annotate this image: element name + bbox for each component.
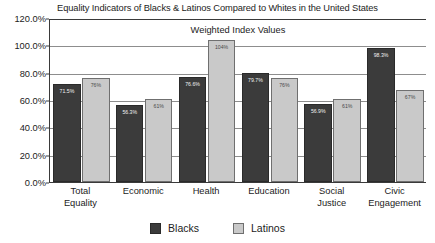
legend-item-blacks[interactable]: Blacks [150, 222, 199, 234]
bar-value-label: 67% [397, 94, 423, 100]
bar-value-label: 79.7% [243, 77, 269, 83]
x-axis-category-label: Health [175, 186, 238, 198]
bar-blacks-civic-engagement[interactable]: 98.3% [367, 48, 395, 182]
bar-chart: Equality Indicators of Blacks & Latinos … [0, 0, 435, 243]
legend-item-latinos[interactable]: Latinos [233, 222, 285, 234]
bar-value-label: 56.9% [305, 108, 331, 114]
bar-blacks-education[interactable]: 79.7% [242, 73, 270, 182]
bar-group: 98.3%67% [364, 19, 427, 182]
bar-value-label: 104% [209, 44, 235, 50]
bar-latinos-civic-engagement[interactable]: 67% [396, 90, 424, 182]
plot-area: Weighted Index Values 71.5%76%56.3%61%76… [49, 19, 426, 183]
bar-latinos-social-justice[interactable]: 61% [333, 99, 361, 182]
bar-group: 56.3%61% [113, 19, 176, 182]
y-axis-tick-label: 60.0% [0, 96, 46, 106]
bar-blacks-health[interactable]: 76.6% [179, 77, 207, 182]
x-axis-category-label: SocialJustice [300, 186, 363, 209]
bar-latinos-economic[interactable]: 61% [145, 99, 173, 182]
legend-label: Latinos [251, 222, 285, 234]
y-axis-tick-label: 80.0% [0, 69, 46, 79]
x-axis-category-label: Education [238, 186, 301, 198]
x-axis-category-label: CivicEngagement [363, 186, 426, 209]
legend-swatch-icon [150, 223, 161, 234]
bar-latinos-education[interactable]: 76% [271, 78, 299, 182]
bar-group: 71.5%76% [50, 19, 113, 182]
y-axis-tick-label: 100.0% [0, 41, 46, 51]
legend: BlacksLatinos [0, 222, 435, 234]
bar-blacks-economic[interactable]: 56.3% [116, 105, 144, 182]
bar-value-label: 76% [272, 82, 298, 88]
bar-value-label: 61% [334, 103, 360, 109]
x-axis-category-label: TotalEquality [49, 186, 112, 209]
y-axis-tick-label: 0.0% [0, 178, 46, 188]
bar-value-label: 56.3% [117, 109, 143, 115]
x-axis-labels: TotalEqualityEconomicHealthEducationSoci… [49, 186, 426, 220]
bar-value-label: 61% [146, 103, 172, 109]
bar-value-label: 76% [83, 82, 109, 88]
bar-latinos-total-equality[interactable]: 76% [82, 78, 110, 182]
bar-value-label: 98.3% [368, 52, 394, 58]
bar-blacks-social-justice[interactable]: 56.9% [304, 104, 332, 182]
bar-group: 76.6%104% [176, 19, 239, 182]
y-axis-tick-label: 40.0% [0, 123, 46, 133]
bar-group: 56.9%61% [301, 19, 364, 182]
bar-value-label: 76.6% [180, 81, 206, 87]
y-axis-tick-label: 120.0% [0, 14, 46, 24]
page-title: Equality Indicators of Blacks & Latinos … [0, 3, 435, 13]
bar-value-label: 71.5% [54, 88, 80, 94]
legend-swatch-icon [233, 223, 244, 234]
bar-latinos-health[interactable]: 104% [208, 40, 236, 182]
legend-label: Blacks [168, 222, 199, 234]
bar-blacks-total-equality[interactable]: 71.5% [53, 84, 81, 182]
y-axis-tick-label: 20.0% [0, 151, 46, 161]
bars-layer: 71.5%76%56.3%61%76.6%104%79.7%76%56.9%61… [50, 19, 426, 182]
x-axis-category-label: Economic [112, 186, 175, 198]
bar-group: 79.7%76% [239, 19, 302, 182]
